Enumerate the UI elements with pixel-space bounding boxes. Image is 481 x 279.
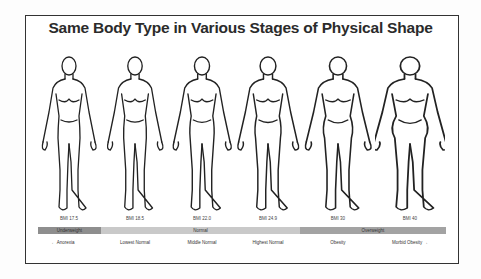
stage-label-lowest-normal: Lowest Normal [100, 240, 170, 245]
bmi-label: BMI 22.0 [172, 216, 232, 221]
body-figure [375, 42, 445, 214]
stage-label-morbid-obesity: Morbid Obesity → [375, 240, 445, 245]
bmi-label: BMI 17.5 [39, 216, 99, 221]
bmi-label: BMI 40 [380, 216, 440, 221]
band-overweight: Overweight [300, 227, 446, 234]
body-figure [34, 42, 104, 214]
bmi-label: BMI 18.5 [105, 216, 165, 221]
body-figure [233, 42, 303, 214]
bmi-label: BMI 30 [308, 216, 368, 221]
stage-label-obesity: Obesity [303, 240, 373, 245]
body-figure [303, 42, 373, 214]
band-underweight: Underweight [38, 227, 101, 234]
stage-label-highest-normal: Highest Normal [233, 240, 303, 245]
body-figure [100, 42, 170, 214]
stage-label-anorexia: ← Anorexia [28, 240, 98, 245]
band-normal: Normal [101, 227, 300, 234]
stage-label-middle-normal: Middle Normal [167, 240, 237, 245]
bmi-label: BMI 24.9 [238, 216, 298, 221]
diagram-title: Same Body Type in Various Stages of Phys… [0, 19, 481, 37]
body-figure [167, 42, 237, 214]
